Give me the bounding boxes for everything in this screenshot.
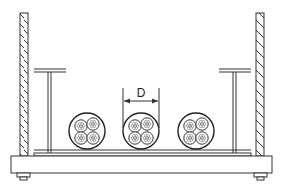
left-bolt: [17, 173, 30, 180]
right-support: [219, 69, 251, 153]
cable-group-right: [178, 113, 214, 149]
cable-tray-diagram: D: [0, 0, 284, 188]
cable-group-middle: [123, 113, 159, 149]
tray: [34, 150, 251, 156]
base-plate: [11, 156, 272, 173]
right-wall: [256, 13, 264, 156]
left-wall: [20, 13, 28, 156]
left-support: [34, 69, 66, 153]
dimension-label: D: [137, 86, 146, 100]
right-bolt: [254, 173, 267, 180]
cable-group-left: [69, 113, 105, 149]
